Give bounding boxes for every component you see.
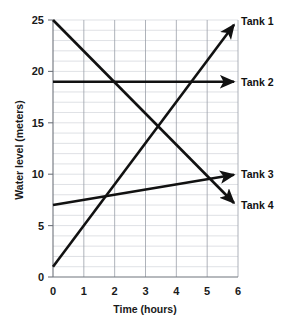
series-label-tank-3: Tank 3 (241, 168, 274, 180)
x-tick-label-5: 5 (204, 285, 210, 297)
x-tick-label-1: 1 (81, 285, 87, 297)
y-tick-label-25: 25 (32, 14, 44, 26)
y-tick-marks (48, 20, 53, 277)
series-label-tank-1: Tank 1 (241, 15, 274, 27)
series-label-tank-2: Tank 2 (241, 76, 274, 88)
x-tick-label-3: 3 (142, 285, 148, 297)
x-axis-title: Time (hours) (113, 303, 176, 315)
y-tick-label-5: 5 (38, 220, 44, 232)
y-tick-label-15: 15 (32, 117, 44, 129)
x-tick-label-0: 0 (50, 285, 56, 297)
x-tick-label-4: 4 (173, 285, 180, 297)
x-tick-label-2: 2 (112, 285, 118, 297)
y-tick-label-0: 0 (38, 271, 44, 283)
chart-container: 0 5 10 15 20 25 0 1 2 3 4 5 6 Time (hour… (0, 0, 286, 324)
y-tick-label-20: 20 (32, 65, 44, 77)
y-tick-label-10: 10 (32, 168, 44, 180)
water-level-line-chart: 0 5 10 15 20 25 0 1 2 3 4 5 6 Time (hour… (0, 0, 286, 324)
x-tick-label-6: 6 (235, 285, 241, 297)
series-label-tank-4: Tank 4 (241, 199, 274, 211)
y-axis-title: Water level (meters) (13, 100, 25, 199)
